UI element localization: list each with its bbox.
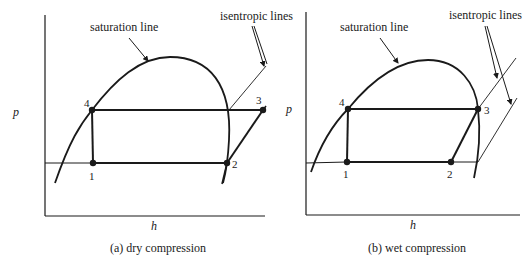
process-4-1 xyxy=(347,109,348,162)
state-point-1 xyxy=(90,160,96,166)
point-label-3: 3 xyxy=(484,104,490,116)
pressure-enthalpy-diagrams: 1 2 3 4 saturation line isentropic lines… xyxy=(0,0,529,269)
state-point-4 xyxy=(345,106,351,112)
state-point-1 xyxy=(344,159,350,165)
saturation-arrow xyxy=(129,38,148,61)
state-point-2 xyxy=(448,159,454,165)
process-4-1 xyxy=(92,110,93,163)
point-label-1: 1 xyxy=(89,170,95,182)
point-label-1: 1 xyxy=(343,168,349,180)
panel-dry-compression: 1 2 3 4 saturation line isentropic lines… xyxy=(12,9,293,255)
evaporator-line-extension xyxy=(306,162,347,163)
isentropic-lines-label: isentropic lines xyxy=(449,8,522,22)
x-axis-label-h: h xyxy=(410,218,416,232)
saturation-arrow xyxy=(380,38,398,63)
saturation-line-label: saturation line xyxy=(90,20,158,34)
point-label-2: 2 xyxy=(447,168,453,180)
state-point-4 xyxy=(89,107,95,113)
y-axis-label-p: p xyxy=(12,105,19,119)
saturation-dome xyxy=(311,60,479,178)
y-axis-label-p: p xyxy=(285,102,292,116)
panel-wet-compression: 1 2 3 4 saturation line isentropic lines… xyxy=(285,8,522,255)
isentropic-arrow-1 xyxy=(252,26,264,66)
isentropic-through-2-lower xyxy=(222,163,227,184)
state-point-2 xyxy=(224,160,230,166)
state-point-3 xyxy=(475,106,481,112)
x-axis-label-h: h xyxy=(151,219,157,233)
point-label-4: 4 xyxy=(84,97,90,109)
state-point-3 xyxy=(260,107,266,113)
point-label-3: 3 xyxy=(256,94,262,106)
process-2-3 xyxy=(451,109,478,162)
process-2-3 xyxy=(227,110,263,163)
saturation-dome xyxy=(55,57,229,183)
saturation-line-label: saturation line xyxy=(340,20,408,34)
point-label-2: 2 xyxy=(232,158,238,170)
caption-wet-compression: (b) wet compression xyxy=(368,241,466,255)
point-label-4: 4 xyxy=(339,96,345,108)
isentropic-lines-label: isentropic lines xyxy=(220,9,293,23)
isentropic-arrow-2 xyxy=(254,26,267,64)
caption-dry-compression: (a) dry compression xyxy=(110,241,206,255)
